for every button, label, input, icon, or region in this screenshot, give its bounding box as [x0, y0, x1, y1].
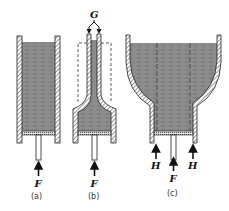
force-label-f-c: F — [169, 173, 178, 184]
force-label-h-left: H — [150, 160, 161, 171]
panel-b: F G (b) — [73, 9, 116, 201]
force-label-g: G — [90, 9, 99, 20]
piston-c — [154, 131, 193, 135]
force-label-f-b: F — [90, 178, 99, 189]
caption-b: (b) — [88, 192, 99, 201]
liquid-b — [78, 40, 112, 131]
rod-a — [36, 135, 41, 160]
force-label-h-right: H — [187, 160, 198, 171]
panel-a: F (a) — [17, 36, 60, 201]
piston-a — [22, 131, 55, 135]
rod-c — [171, 135, 176, 160]
piston-b — [78, 131, 111, 135]
liquid-c — [130, 43, 217, 131]
hydrostatic-diagram: F (a) F G (b) H — [0, 0, 229, 211]
panel-c: H H F (c) — [126, 35, 221, 198]
left-wall-a — [17, 36, 22, 143]
caption-c: (c) — [167, 189, 178, 198]
right-wall-a — [55, 36, 60, 143]
rod-b — [92, 135, 97, 160]
arrowhead-g-right — [97, 29, 102, 34]
force-label-f-a: F — [34, 178, 43, 189]
arrowhead-g-left — [87, 29, 92, 34]
caption-a: (a) — [31, 192, 42, 201]
liquid-a — [22, 42, 55, 131]
